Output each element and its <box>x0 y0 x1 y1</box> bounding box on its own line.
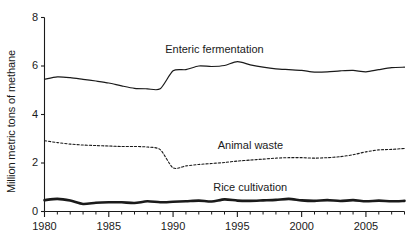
series-label-enteric-fermentation: Enteric fermentation <box>165 43 263 55</box>
methane-emissions-line-chart: Million metric tons of methane 024681980… <box>0 0 417 243</box>
y-tick-label: 6 <box>24 59 38 71</box>
series-line-enteric-fermentation <box>45 62 405 90</box>
y-tick-label: 8 <box>24 11 38 23</box>
chart-plot-area <box>0 0 417 243</box>
x-tick-label: 1980 <box>25 220 65 232</box>
x-tick-label: 1990 <box>153 220 193 232</box>
y-tick-label: 2 <box>24 156 38 168</box>
series-label-animal-waste: Animal waste <box>218 139 283 151</box>
x-tick-label: 2000 <box>282 220 322 232</box>
series-label-rice-cultivation: Rice cultivation <box>213 181 287 193</box>
y-tick-label: 4 <box>24 108 38 120</box>
x-tick-label: 1995 <box>217 220 257 232</box>
y-tick-label: 0 <box>24 205 38 217</box>
x-tick-label: 1985 <box>89 220 129 232</box>
x-tick-label: 2005 <box>346 220 386 232</box>
series-line-rice-cultivation <box>45 199 405 204</box>
